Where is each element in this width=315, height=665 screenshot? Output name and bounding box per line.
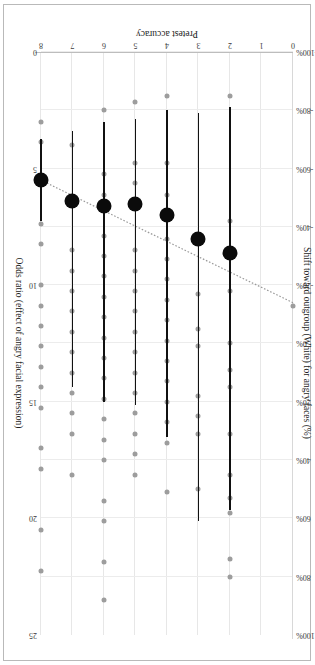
y2-tick-label: 10 — [29, 281, 37, 290]
error-bar — [135, 119, 137, 405]
x-axis-title: Pretest accuracy — [136, 29, 198, 39]
x-tick-label: 8 — [39, 41, 43, 50]
y2-tick-label: 15 — [29, 397, 37, 406]
chart-page: 012345678100%80%60%40%20%0%-20%-40%-60%-… — [0, 0, 315, 665]
x-tick-label: 2 — [228, 41, 232, 50]
x-tick-label: 7 — [71, 41, 75, 50]
y2-tick-label: 5 — [33, 164, 37, 173]
x-tick-label: 4 — [165, 41, 169, 50]
mean-marker — [34, 173, 49, 188]
mean-marker — [128, 196, 143, 211]
error-bar — [229, 107, 231, 509]
y2-axis-title: Odds ratio (effect of angry facial expre… — [14, 258, 24, 429]
error-bar — [103, 122, 105, 402]
mean-marker — [191, 231, 206, 246]
x-tick-label: 3 — [197, 41, 201, 50]
mean-marker — [223, 246, 238, 261]
mean-marker — [97, 199, 112, 214]
x-tick-label: 6 — [102, 41, 106, 50]
y2-tick-label: 0 — [33, 48, 37, 57]
x-tick-label: 5 — [134, 41, 138, 50]
rotated-chart-canvas: 012345678100%80%60%40%20%0%-20%-40%-60%-… — [0, 0, 315, 665]
y-tick-label: 60% — [296, 514, 311, 523]
mean-marker — [160, 208, 175, 223]
error-bar — [166, 110, 168, 436]
x-tick-label: 1 — [260, 41, 264, 50]
plot-area: 012345678100%80%60%40%20%0%-20%-40%-60%-… — [41, 52, 293, 635]
y-tick-label: -100% — [296, 48, 315, 57]
y-axis-title: Shift toward outgroup (White) for angry … — [302, 248, 312, 440]
y-tick-label: -60% — [296, 164, 313, 173]
y-tick-label: 100% — [296, 631, 315, 640]
y2-tick-label: 20 — [29, 514, 37, 523]
error-bar — [198, 113, 200, 521]
y-tick-label: 40% — [296, 456, 311, 465]
y2-tick-label: 25 — [29, 631, 37, 640]
y-tick-label: -80% — [296, 106, 313, 115]
y-tick-label: -40% — [296, 222, 313, 231]
error-bar — [72, 131, 74, 388]
x-tick-label: 0 — [291, 41, 295, 50]
y-tick-label: 80% — [296, 572, 311, 581]
mean-marker — [65, 193, 80, 208]
